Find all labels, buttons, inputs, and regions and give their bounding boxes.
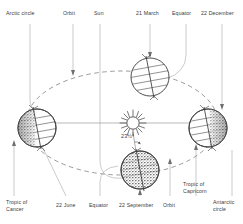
- earth-22-june: [15, 105, 59, 151]
- leader-equator-top: [166, 24, 186, 79]
- leader-sun: [100, 24, 122, 178]
- label-21-march: 21 March: [136, 10, 159, 16]
- label-tropic-of-capricorn-line1: Tropic of: [183, 181, 204, 187]
- label-equator-top: Equator: [172, 10, 191, 16]
- label-orbit-top: Orbit: [63, 10, 75, 16]
- arrow-orbit-bottom: [168, 158, 172, 164]
- arrow-orbit-top: [71, 70, 75, 76]
- arrow-tropic-cancer: [12, 140, 16, 146]
- arrow-21-march: [148, 52, 152, 58]
- label-tropic-of-cancer-line1: Tropic of: [6, 199, 27, 205]
- orbit-seasons-diagram: Arctic circle Orbit Sun 21 March Equator…: [0, 0, 243, 224]
- arrow-22-september: [138, 189, 142, 195]
- label-antarctic-circle-line2: circle: [213, 206, 226, 212]
- label-orbit-bottom: Orbit: [163, 202, 175, 208]
- arrow-tropic-capricorn: [194, 144, 198, 150]
- label-tropic-of-capricorn-line2: Capricorn: [183, 188, 207, 194]
- label-arctic-circle: Arctic circle: [6, 10, 34, 16]
- label-22-june: 22 June: [56, 202, 76, 208]
- earth-21-march: [128, 54, 172, 100]
- label-22-december: 22 December: [201, 10, 234, 16]
- label-sun: Sun: [94, 10, 104, 16]
- label-tropic-of-cancer-line2: Cancer: [6, 206, 24, 212]
- leader-arctic-circle: [30, 24, 36, 111]
- leader-equator-bottom: [100, 166, 118, 196]
- arrow-22-december: [220, 104, 224, 110]
- label-axial-tilt: 23½°: [121, 133, 134, 139]
- earth-22-september: [118, 132, 162, 191]
- earth-22-december: [186, 105, 230, 151]
- label-antarctic-circle-line1: Antarctic: [213, 199, 235, 205]
- label-22-september: 22 September: [119, 202, 153, 208]
- label-equator-bottom: Equator: [89, 202, 108, 208]
